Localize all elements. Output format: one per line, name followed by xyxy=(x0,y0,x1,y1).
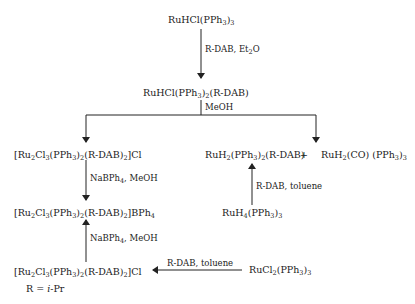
condition-step1: R-DAB, Et2O xyxy=(205,44,260,55)
compound-ruh4: RuH4(PPh3)3 xyxy=(222,207,282,219)
formula-text: O xyxy=(253,44,260,54)
formula-text: , MeOH xyxy=(124,233,158,243)
formula-text: RuCl xyxy=(249,264,273,275)
condition-step2: MeOH xyxy=(205,102,233,113)
compound-start: RuHCl(PPh3)3 xyxy=(168,14,234,26)
compound-ru2-chloride-bottom: [Ru2Cl3(PPh3)2(R-DAB)2]Cl xyxy=(14,266,142,278)
formula-text: (PPh xyxy=(50,149,73,160)
condition-step3: NaBPh4, MeOH xyxy=(90,173,158,184)
formula-text: -Pr xyxy=(50,283,64,294)
formula-text: (R-DAB) xyxy=(84,207,123,218)
compound-ru2-chloride-top: [Ru2Cl3(PPh3)2(R-DAB)2]Cl xyxy=(14,149,142,161)
formula-text: R = xyxy=(26,283,47,294)
formula-text: RuH xyxy=(205,149,227,160)
formula-text: (CO) (PPh xyxy=(347,149,395,160)
compound-rucl2: RuCl2(PPh3)3 xyxy=(249,264,311,276)
condition-step4: NaBPh4, MeOH xyxy=(90,233,158,244)
subscript: 4 xyxy=(151,212,155,220)
formula-text: R-DAB, toluene xyxy=(167,258,233,268)
condition-step5: R-DAB, toluene xyxy=(256,181,322,192)
formula-text: [Ru xyxy=(14,207,31,218)
formula-text: , MeOH xyxy=(124,173,158,183)
formula-text: R-DAB, Et xyxy=(205,44,249,54)
formula-text: (R-DAB) xyxy=(265,149,304,160)
formula-text: Cl xyxy=(35,207,45,218)
formula-text: ]BPh xyxy=(128,207,151,218)
formula-text: MeOH xyxy=(205,102,233,112)
plus-sign: + xyxy=(300,149,308,161)
formula-text: ]Cl xyxy=(128,266,142,277)
compound-ruh2-co: RuH2(CO) (PPh3)3 xyxy=(321,149,407,161)
formula-text: R-DAB, toluene xyxy=(256,181,322,191)
subscript: 3 xyxy=(307,269,311,277)
compound-intermediate: RuHCl(PPh3)2(R-DAB) xyxy=(143,87,249,99)
formula-text: (R-DAB) xyxy=(84,149,123,160)
formula-text: RuH xyxy=(222,207,244,218)
compound-ruh2-dab: RuH2(PPh3)2(R-DAB) xyxy=(205,149,305,161)
formula-text: (R-DAB) xyxy=(209,87,248,98)
subscript: 3 xyxy=(230,19,234,27)
formula-text: RuHCl(PPh xyxy=(143,87,197,98)
subscript: 3 xyxy=(278,212,282,220)
formula-text: + xyxy=(300,149,308,160)
formula-text: Cl xyxy=(35,266,45,277)
formula-text: (PPh xyxy=(231,149,254,160)
formula-text: (R-DAB) xyxy=(84,266,123,277)
footnote-r-definition: R = i-Pr xyxy=(26,283,64,295)
formula-text: [Ru xyxy=(14,149,31,160)
formula-text: NaBPh xyxy=(90,173,120,183)
subscript: 3 xyxy=(403,154,407,162)
condition-step6: R-DAB, toluene xyxy=(167,258,233,269)
formula-text: (PPh xyxy=(50,266,73,277)
compound-ru2-bph4: [Ru2Cl3(PPh3)2(R-DAB)2]BPh4 xyxy=(14,207,155,219)
formula-text: [Ru xyxy=(14,266,31,277)
formula-text: (PPh xyxy=(50,207,73,218)
formula-text: RuHCl(PPh xyxy=(168,14,222,25)
formula-text: RuH xyxy=(321,149,343,160)
formula-text: (PPh xyxy=(277,264,300,275)
formula-text: ]Cl xyxy=(128,149,142,160)
formula-text: (PPh xyxy=(248,207,271,218)
formula-text: Cl xyxy=(35,149,45,160)
formula-text: NaBPh xyxy=(90,233,120,243)
